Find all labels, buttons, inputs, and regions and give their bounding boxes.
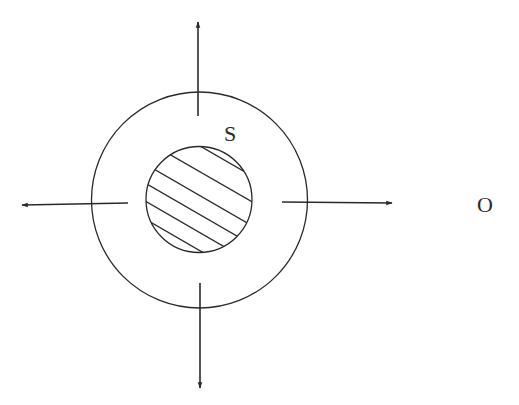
arrow-left bbox=[22, 203, 128, 205]
inner-core-hatching bbox=[100, 100, 280, 314]
outer-shell-circle bbox=[92, 92, 308, 308]
observer-label: O bbox=[477, 192, 493, 217]
shell-label: S bbox=[224, 121, 236, 146]
diagram-canvas: S O bbox=[0, 0, 519, 405]
inner-core-circle bbox=[146, 147, 252, 253]
arrow-right bbox=[282, 202, 392, 203]
